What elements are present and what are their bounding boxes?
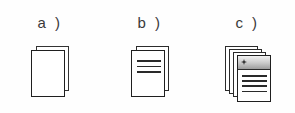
text-line xyxy=(137,60,161,62)
blank-documents-icon xyxy=(31,46,73,100)
icon-area-b xyxy=(100,46,200,108)
document-stack-with-header-icon xyxy=(225,46,275,106)
panel-label-a: a ) xyxy=(0,14,100,32)
text-line xyxy=(242,91,267,93)
text-line xyxy=(242,80,267,82)
text-line xyxy=(242,75,267,77)
text-documents-icon xyxy=(131,46,173,100)
figure-panel-a: a ) xyxy=(0,0,100,113)
text-line xyxy=(242,85,267,87)
document-text-lines xyxy=(242,75,267,96)
figure-panel-b: b ) xyxy=(100,0,200,113)
document-sheet-front xyxy=(131,50,165,97)
figure-panel-c: c ) xyxy=(200,0,295,113)
diamond-marker-icon xyxy=(241,59,247,65)
document-sheet-front xyxy=(237,55,271,102)
document-sheet-front xyxy=(31,50,65,97)
document-text-lines xyxy=(137,60,161,77)
panel-label-c: c ) xyxy=(200,14,295,32)
text-line xyxy=(137,71,161,73)
panel-label-b: b ) xyxy=(100,14,200,32)
document-header-band xyxy=(238,56,270,70)
icon-area-a xyxy=(0,46,100,108)
text-line xyxy=(137,66,161,68)
document-icons-figure: a ) b ) c ) xyxy=(0,0,295,113)
icon-area-c xyxy=(200,46,295,108)
